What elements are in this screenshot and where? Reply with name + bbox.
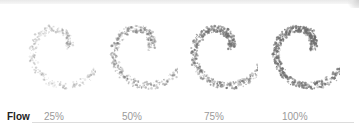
flow-value-100: 100% (282, 111, 308, 122)
spiral-sample-25 (16, 8, 96, 100)
flow-value-50: 50% (122, 111, 142, 122)
spiral-sample-100 (260, 8, 340, 100)
flow-row-title: Flow (7, 111, 30, 122)
page-curl-corner (345, 0, 359, 8)
divider-line (32, 122, 354, 123)
flow-value-25: 25% (44, 111, 64, 122)
top-edge (0, 0, 359, 4)
spiral-sample-75 (178, 8, 258, 100)
flow-label-row: Flow 25% 50% 75% 100% (0, 110, 359, 126)
spiral-sample-50 (98, 8, 178, 100)
flow-value-75: 75% (204, 111, 224, 122)
